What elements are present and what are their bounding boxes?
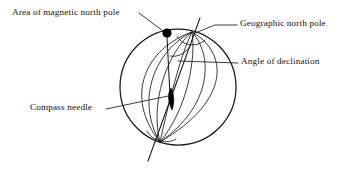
- leader-line-geographic-pole: [195, 25, 237, 33]
- label-geographic-north-pole: Geographic north pole: [240, 18, 326, 28]
- label-magnetic-north-pole: Area of magnetic north pole: [12, 7, 120, 17]
- figure-container: Area of magnetic north pole Geographic n…: [0, 0, 349, 174]
- magnetic-north-pole-dot: [162, 28, 171, 37]
- leader-line-magnetic-pole: [139, 13, 163, 31]
- leader-line-compass-needle: [106, 95, 173, 109]
- label-angle-of-declination: Angle of declination: [241, 56, 320, 66]
- meridian-6: [160, 32, 205, 142]
- label-compass-needle: Compass needle: [30, 102, 92, 112]
- rotation-axis-line: [148, 18, 200, 161]
- meridian-lines: [142, 32, 218, 142]
- leader-line-declination: [178, 61, 238, 63]
